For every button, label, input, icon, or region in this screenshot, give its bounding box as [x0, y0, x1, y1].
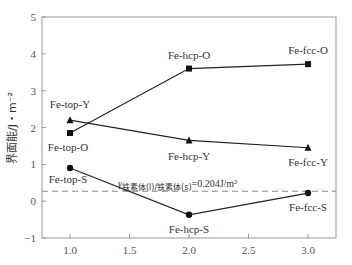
x-tick-label: 2.0 [182, 244, 196, 256]
square-marker [305, 61, 311, 67]
point-label: Fe-top-S [49, 173, 88, 185]
series-group: Fe-top-OFe-hcp-OFe-fcc-OFe-top-YFe-hcp-Y… [48, 44, 328, 235]
y-tick-label: 5 [31, 11, 37, 23]
x-tick-label: 2.5 [242, 244, 256, 256]
reference-line-label: γ铁素体(l)/铁素体(s)=0.204J/m² [118, 178, 237, 192]
x-tick-label: 1.5 [123, 244, 137, 256]
y-tick-label: 1 [31, 158, 37, 170]
y-axis: −1012345 [24, 11, 46, 244]
point-label: Fe-fcc-O [288, 44, 328, 56]
x-tick-label: 3.0 [301, 244, 315, 256]
square-marker [67, 130, 73, 136]
y-tick-label: 2 [31, 122, 37, 134]
y-tick-label: 3 [31, 85, 37, 97]
square-marker [186, 66, 192, 72]
point-label: Fe-top-Y [50, 98, 90, 110]
series-line [70, 64, 308, 133]
circle-marker [67, 165, 73, 171]
point-label: Fe-hcp-O [168, 49, 210, 61]
series-line [70, 120, 308, 148]
circle-marker [186, 212, 192, 218]
point-label: Fe-fcc-Y [288, 156, 328, 168]
point-label: Fe-hcp-S [169, 223, 209, 235]
point-label: Fe-hcp-Y [168, 150, 210, 162]
series-y: Fe-top-YFe-hcp-YFe-fcc-Y [50, 98, 328, 168]
point-label: Fe-top-O [48, 141, 88, 153]
y-tick-label: −1 [24, 232, 36, 244]
x-axis: 1.01.52.02.53.0 [63, 234, 315, 256]
triangle-marker [67, 116, 74, 123]
series-s: Fe-top-SFe-hcp-SFe-fcc-S [49, 165, 327, 235]
point-label: Fe-fcc-S [289, 201, 327, 213]
chart: −1012345 1.01.52.02.53.0 界面能/J・m⁻² γ铁素体(… [0, 0, 352, 265]
y-axis-label: 界面能/J・m⁻² [5, 92, 19, 164]
circle-marker [305, 190, 311, 196]
y-tick-label: 0 [31, 195, 37, 207]
x-tick-label: 1.0 [63, 244, 77, 256]
y-tick-label: 4 [31, 48, 37, 60]
